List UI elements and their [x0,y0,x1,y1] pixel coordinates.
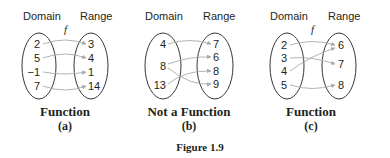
figure-label: Figure 1.9 [176,141,224,153]
domain-value: 5 [34,52,40,64]
panel-sublabel: (a) [58,119,72,133]
range-value: 6 [338,39,344,51]
range-value: 4 [88,52,94,64]
mapping-diagram-figure: Domain Range f 2 5 −1 7 3 4 1 14 Functio… [0,0,390,158]
panel-sublabel: (b) [182,119,197,133]
range-value: 9 [213,78,219,90]
panel-c: Domain Range f 2 3 4 5 6 7 8 Function (c… [270,10,360,133]
range-label: Range [203,10,235,22]
domain-label: Domain [270,10,308,22]
panel-caption: Not a Function [147,104,231,119]
mapping-arrow [168,57,211,64]
mapping-arrow [290,85,335,89]
domain-value: 4 [281,65,287,77]
function-label: f [64,23,69,35]
function-label: f [311,23,316,35]
domain-label: Domain [23,10,61,22]
mapping-arrow [43,72,86,74]
range-value: 1 [88,66,94,78]
domain-value: 2 [281,39,287,51]
range-label: Range [328,10,360,22]
range-value: 8 [338,79,344,91]
mapping-arrow [168,68,211,84]
panel-sublabel: (c) [304,119,317,133]
domain-value: −1 [27,66,40,78]
domain-value: 7 [34,80,40,92]
panel-a: Domain Range f 2 5 −1 7 3 4 1 14 Functio… [22,10,112,133]
mapping-arrow [290,58,335,64]
domain-value: 2 [34,38,40,50]
domain-value: 3 [281,52,287,64]
domain-value: 5 [281,79,287,91]
mapping-arrow [43,86,86,90]
domain-value: 4 [160,38,166,50]
range-label: Range [80,10,112,22]
range-value: 7 [213,38,219,50]
range-value: 6 [213,51,219,63]
mapping-arrow [290,48,335,71]
range-value: 14 [88,80,100,92]
domain-label: Domain [145,10,183,22]
panel-b: Domain Range 4 8 13 7 6 8 9 Not a Functi… [145,10,235,133]
panel-caption: Function [40,104,91,119]
mapping-arrow [43,54,86,58]
domain-value: 13 [154,79,166,91]
range-value: 3 [88,38,94,50]
mapping-arrow [290,42,335,46]
panel-caption: Function [286,104,337,119]
range-value: 8 [213,65,219,77]
domain-value: 8 [160,60,166,72]
range-value: 7 [338,58,344,70]
